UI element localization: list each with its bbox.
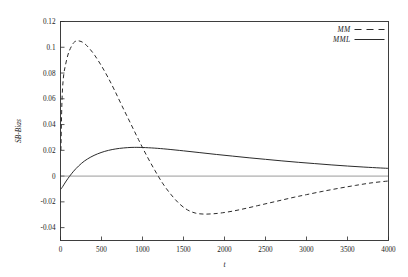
- legend-label-mm: MM: [336, 25, 351, 34]
- x-tick-label: 1500: [176, 246, 191, 254]
- x-tick-label: 0: [59, 246, 63, 254]
- y-tick-label: 0.12: [43, 18, 56, 26]
- x-tick-label: 2500: [258, 246, 273, 254]
- x-tick-label: 3500: [340, 246, 355, 254]
- y-tick-label: 0.04: [43, 121, 56, 129]
- y-tick-label: 0: [52, 173, 56, 181]
- y-tick-label: 0.1: [47, 44, 56, 52]
- y-tick-label: 0.02: [43, 147, 56, 155]
- legend-label-mml: MML: [332, 35, 351, 44]
- y-axis-title: SB-Bias: [14, 119, 23, 143]
- chart-figure: 0.120.10.080.060.040.020-0.02-0.04 05001…: [0, 0, 408, 277]
- line-chart: 0.120.10.080.060.040.020-0.02-0.04 05001…: [0, 0, 408, 277]
- x-tick-label: 4000: [381, 246, 396, 254]
- y-tick-label: -0.02: [41, 198, 56, 206]
- x-tick-label: 3000: [299, 246, 314, 254]
- x-tick-label: 2000: [217, 246, 232, 254]
- x-tick-label: 1000: [135, 246, 150, 254]
- y-tick-label: 0.08: [43, 70, 56, 78]
- y-tick-label: -0.04: [41, 224, 56, 232]
- x-tick-label: 500: [96, 246, 107, 254]
- y-tick-label: 0.06: [43, 95, 56, 103]
